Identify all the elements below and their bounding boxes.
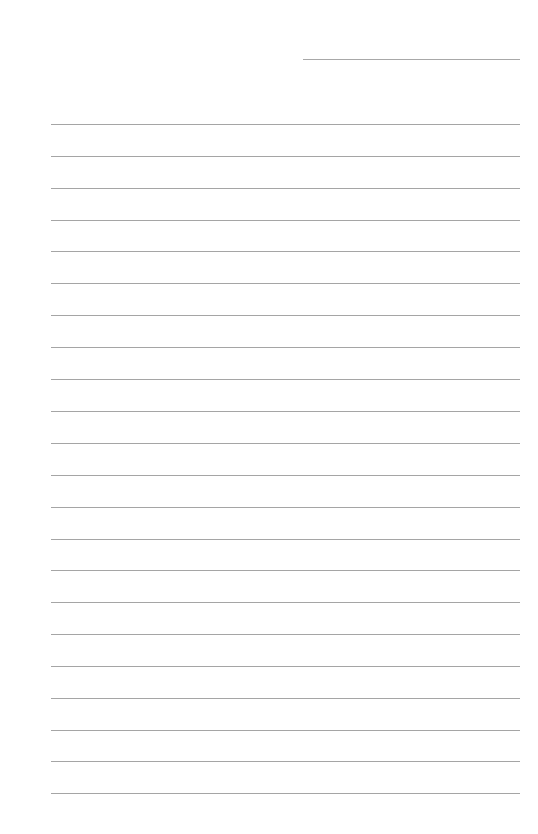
ruled-line xyxy=(51,156,520,157)
ruled-line xyxy=(51,475,520,476)
ruled-line xyxy=(51,124,520,125)
ruled-line xyxy=(51,698,520,699)
ruled-line xyxy=(51,220,520,221)
ruled-line xyxy=(51,602,520,603)
ruled-line xyxy=(51,507,520,508)
ruled-line xyxy=(51,251,520,252)
ruled-line xyxy=(51,761,520,762)
ruled-line xyxy=(51,539,520,540)
ruled-line xyxy=(51,315,520,316)
ruled-line xyxy=(51,379,520,380)
ruled-line xyxy=(51,347,520,348)
ruled-line xyxy=(51,634,520,635)
ruled-line xyxy=(51,188,520,189)
ruled-lines-container xyxy=(0,0,538,834)
ruled-line xyxy=(51,793,520,794)
lined-paper-page xyxy=(0,0,538,834)
ruled-line xyxy=(51,443,520,444)
ruled-line xyxy=(51,411,520,412)
ruled-line xyxy=(51,730,520,731)
ruled-line xyxy=(51,283,520,284)
ruled-line xyxy=(51,666,520,667)
ruled-line xyxy=(51,570,520,571)
